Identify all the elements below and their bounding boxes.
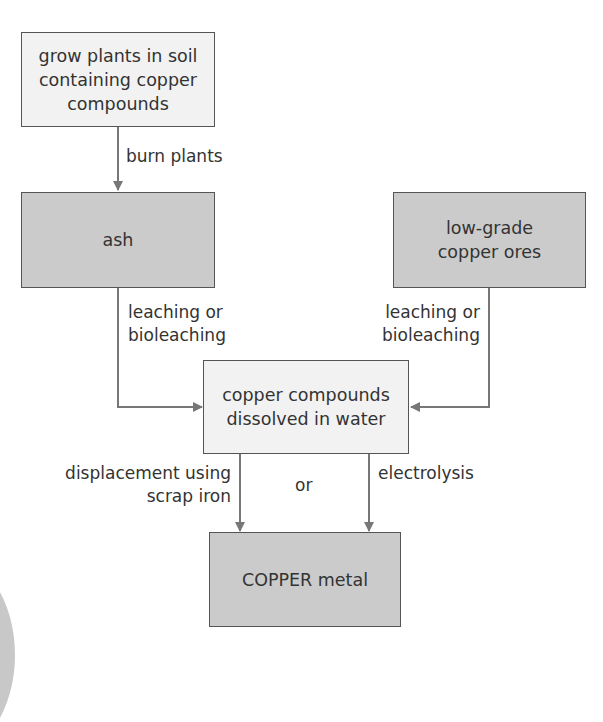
node-grow-plants-line: grow plants in soil xyxy=(39,44,198,68)
edge-label-line: leaching or xyxy=(382,301,480,324)
node-dissolved: copper compounds dissolved in water xyxy=(203,360,409,454)
edge-label-leaching-left: leaching or bioleaching xyxy=(128,301,226,347)
node-ash: ash xyxy=(21,192,215,288)
node-low-grade-ores: low-grade copper ores xyxy=(393,192,586,288)
edge-label-line: displacement using xyxy=(61,462,231,485)
node-ores-line: low-grade xyxy=(438,216,541,240)
node-ash-label: ash xyxy=(103,228,134,252)
edge-label-line: scrap iron xyxy=(61,485,231,508)
edge-label-or: or xyxy=(295,474,312,497)
node-grow-plants-line: compounds xyxy=(39,92,198,116)
node-copper-metal: COPPER metal xyxy=(209,532,401,627)
edge-label-electrolysis: electrolysis xyxy=(378,462,474,485)
edge-label-displacement: displacement using scrap iron xyxy=(61,462,231,508)
node-ores-line: copper ores xyxy=(438,240,541,264)
node-grow-plants-line: containing copper xyxy=(39,68,198,92)
edge-label-line: leaching or xyxy=(128,301,226,324)
edge-label-line: bioleaching xyxy=(382,324,480,347)
node-dissolved-line: copper compounds xyxy=(222,383,390,407)
edge-label-line: bioleaching xyxy=(128,324,226,347)
edge-label-burn-plants: burn plants xyxy=(126,145,223,168)
node-dissolved-line: dissolved in water xyxy=(222,407,390,431)
edge-label-leaching-right: leaching or bioleaching xyxy=(382,301,480,347)
node-copper-metal-label: COPPER metal xyxy=(242,568,368,592)
node-grow-plants: grow plants in soil containing copper co… xyxy=(21,32,215,127)
